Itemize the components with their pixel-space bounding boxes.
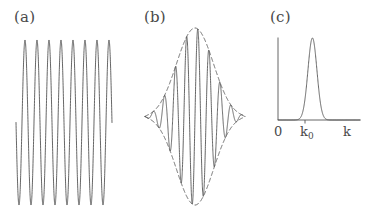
- axis-label-k0-subscript: 0: [308, 131, 314, 141]
- axis-label-k0-base: k: [300, 124, 308, 139]
- wave-packet-curve: [145, 29, 245, 204]
- plane-wave-curve: [16, 40, 112, 205]
- axis-label-k: k: [343, 124, 351, 139]
- panel-c-plot: [260, 0, 366, 213]
- panel-a: (a): [0, 0, 130, 213]
- panel-c-axes: [278, 38, 360, 120]
- wave-packet-figure: (a) (b) (c) 0 k0 k: [0, 0, 366, 213]
- panel-c: (c) 0 k0 k: [260, 0, 366, 213]
- axis-label-origin: 0: [274, 124, 282, 139]
- panel-a-plot: [0, 0, 130, 213]
- momentum-peak-curve: [278, 38, 360, 120]
- panel-b-plot: [130, 0, 260, 213]
- panel-b: (b): [130, 0, 260, 213]
- axis-label-k0: k0: [300, 124, 314, 139]
